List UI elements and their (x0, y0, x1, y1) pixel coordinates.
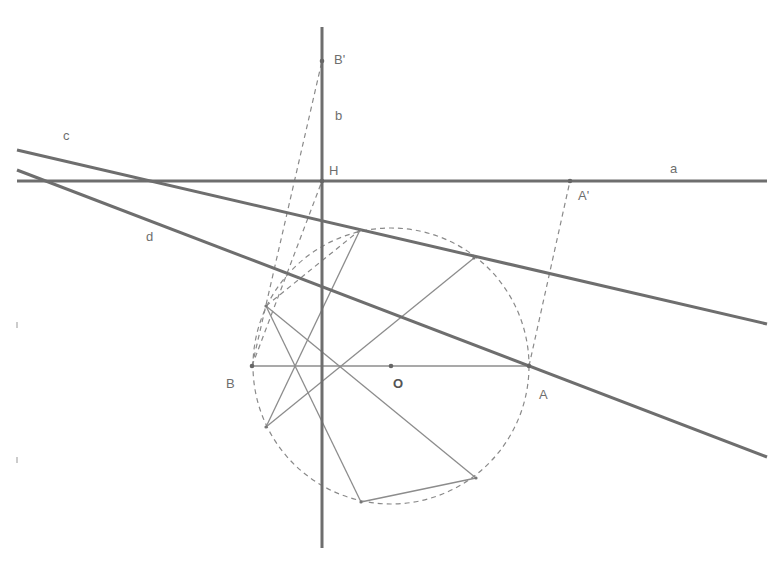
line-c[interactable] (17, 150, 767, 324)
point-b-label: B (226, 376, 235, 391)
line-b-label: b (335, 108, 342, 123)
hexagon-vertex[interactable] (358, 228, 361, 231)
geometry-canvas: a b c d O A B H A' B' (0, 0, 781, 566)
thin-segment (266, 306, 476, 478)
hexagon-vertex[interactable] (359, 500, 362, 503)
point-a-prime-label: A' (578, 188, 589, 203)
hexagon-vertex[interactable] (472, 256, 475, 259)
points (250, 59, 573, 504)
hexagon-vertex[interactable] (474, 476, 477, 479)
point-a-prime[interactable] (568, 179, 573, 184)
line-d[interactable] (17, 170, 767, 457)
point-b[interactable] (250, 364, 255, 369)
thin-segment (361, 478, 476, 502)
line-a-label: a (670, 161, 678, 176)
thin-segment (266, 306, 361, 502)
point-o-label: O (393, 376, 403, 391)
line-c-label: c (63, 128, 70, 143)
point-h[interactable] (320, 179, 325, 184)
thin-segment (266, 230, 360, 427)
hexagon-vertex[interactable] (264, 425, 267, 428)
thin-segment (266, 258, 474, 427)
point-o[interactable] (389, 364, 394, 369)
point-b-prime[interactable] (320, 59, 325, 64)
point-a-label: A (539, 387, 548, 402)
line-d-label: d (146, 229, 153, 244)
hexagon-vertex[interactable] (264, 304, 267, 307)
point-a[interactable] (527, 364, 532, 369)
point-h-label: H (329, 163, 338, 178)
point-b-prime-label: B' (334, 52, 345, 67)
